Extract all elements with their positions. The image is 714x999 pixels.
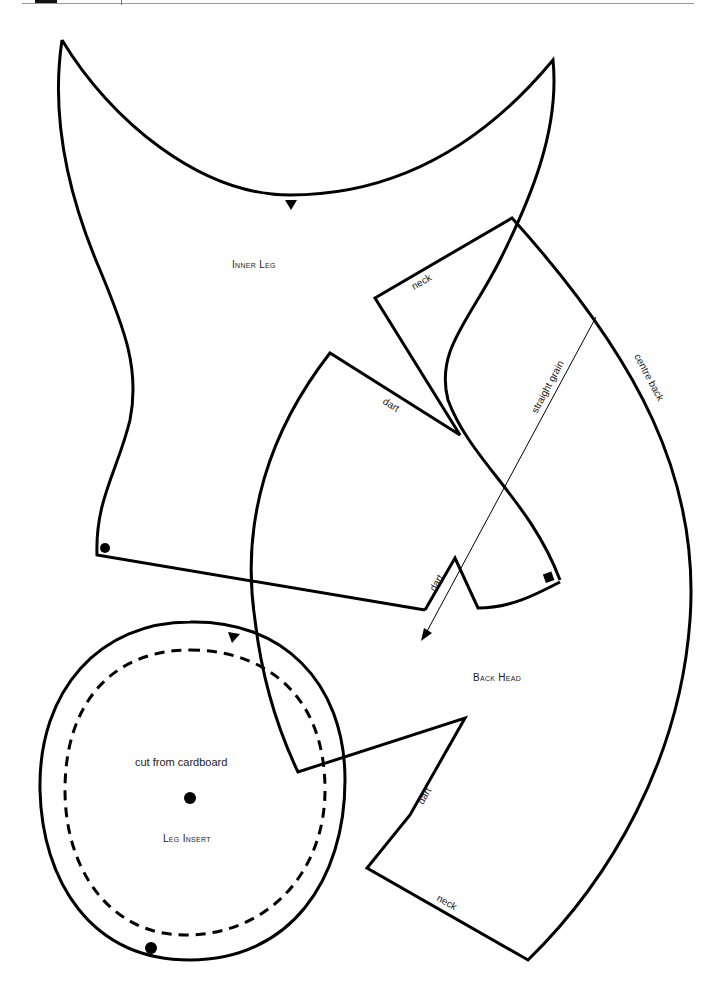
insert-centre-dot-icon	[184, 792, 196, 804]
grainline-arrow-icon	[421, 628, 432, 641]
leg-insert-piece	[40, 622, 345, 960]
back-head-outline	[251, 218, 691, 960]
insert-notch-triangle-icon	[228, 632, 240, 643]
back-head-inner-dart	[425, 558, 560, 610]
corner-square-icon	[543, 572, 555, 584]
leg-insert-seam-dashed	[65, 650, 325, 935]
back-head-title: Back Head	[473, 672, 521, 683]
edge-label-dart-lower: dart	[415, 785, 433, 806]
grainline	[425, 317, 596, 635]
pattern-sheet: Inner Leg Back Head Leg Insert cut from …	[0, 0, 714, 999]
back-head-piece	[251, 218, 691, 960]
edge-label-centre-back: centre back	[632, 352, 666, 404]
leg-insert-title: Leg Insert	[163, 833, 211, 844]
match-dot-icon	[100, 543, 110, 553]
edge-label-dart-upper: dart	[381, 395, 402, 414]
leg-insert-outline	[40, 622, 345, 960]
edge-label-dart-middle: dart	[427, 572, 445, 593]
notch-triangle-icon	[285, 200, 297, 210]
inner-leg-title: Inner Leg	[232, 259, 276, 270]
insert-match-dot-icon	[145, 942, 157, 954]
leg-insert-note: cut from cardboard	[135, 756, 227, 768]
